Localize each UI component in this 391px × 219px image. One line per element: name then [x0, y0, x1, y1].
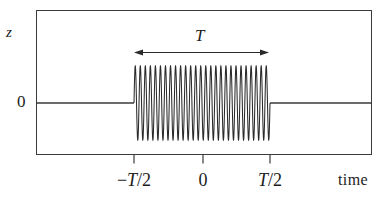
tick-prefix: −	[117, 170, 127, 190]
x-axis-label: time	[338, 172, 368, 188]
tick-italic: T	[258, 170, 268, 190]
x-tick-label-zero: 0	[199, 170, 208, 191]
x-axis-ticks	[134, 155, 270, 164]
x-tick-label-half-T: T/2	[258, 170, 282, 191]
tick-suffix: /2	[137, 170, 151, 190]
tick-suffix: 0	[199, 170, 208, 190]
x-tick-label-minus-half-T: −T/2	[117, 170, 151, 191]
wave-train-curve	[134, 66, 270, 140]
tick-italic: T	[127, 170, 137, 190]
y-axis-label: z	[6, 25, 12, 40]
duration-arrow	[134, 49, 269, 55]
y-zero-label: 0	[17, 93, 26, 110]
wave-train-figure: z 0 T −T/2 0 T/2 time	[0, 0, 391, 219]
duration-label: T	[195, 27, 204, 44]
tick-suffix: /2	[268, 170, 282, 190]
